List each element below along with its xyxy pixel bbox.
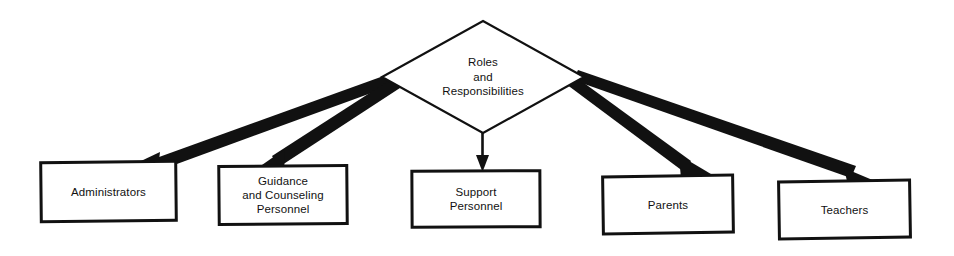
node-box-support-personnel — [412, 171, 540, 228]
node-box-administrators — [41, 161, 177, 221]
connector-to-teachers — [573, 70, 856, 178]
connector-to-guidance-and-counseling-personnel — [272, 78, 403, 167]
diagram-graphics — [0, 0, 954, 256]
node-box-guidance-and-counseling-personnel — [219, 165, 348, 224]
node-box-teachers — [779, 180, 911, 239]
diagram-canvas: Roles and Responsibilities Administrator… — [0, 0, 954, 256]
connector-to-administrators — [148, 74, 396, 172]
node-box-parents — [603, 175, 734, 234]
root-node-diamond — [382, 21, 584, 133]
